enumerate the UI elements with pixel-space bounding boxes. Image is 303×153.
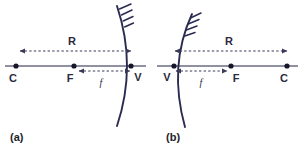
point-dot-f-b: [228, 63, 233, 68]
figure-canvas: R f C F V (a): [0, 0, 303, 153]
point-label-f-b: F: [233, 72, 240, 84]
point-label-c-b: C: [280, 72, 288, 84]
point-label-v-a: V: [134, 71, 142, 83]
point-dot-v-a: [128, 63, 133, 68]
dimension-R-a-label: R: [68, 35, 76, 47]
panel-caption-b: (b): [166, 131, 180, 143]
point-label-c-a: C: [9, 72, 17, 84]
panel-a: R f C F V (a): [5, 4, 146, 143]
dimension-R-b: R: [175, 35, 287, 51]
dimension-f-a-label: f: [100, 77, 104, 88]
point-label-f-a: F: [67, 72, 74, 84]
dimension-R-b-label: R: [225, 35, 233, 47]
dimension-f-b: f: [176, 71, 227, 88]
panel-b: R f V F C (b): [157, 13, 298, 143]
dimension-f-b-label: f: [200, 77, 204, 88]
point-dot-c-b: [284, 63, 289, 68]
point-dot-v-b: [171, 63, 176, 68]
point-dot-f-a: [71, 63, 76, 68]
optics-mirror-figure: R f C F V (a): [0, 0, 303, 153]
point-label-v-b: V: [163, 71, 171, 83]
point-dot-c-a: [13, 63, 18, 68]
dimension-f-a: f: [79, 71, 130, 88]
panel-caption-a: (a): [10, 131, 24, 143]
dimension-R-a: R: [20, 35, 131, 51]
